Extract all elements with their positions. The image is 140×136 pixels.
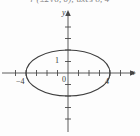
ellipse-figure: r (±2√6, 0); axes 8, 4 — [0, 0, 140, 136]
x-tick-label-negative-4: −4 — [16, 77, 25, 86]
y-axis-arrow-icon — [65, 10, 71, 16]
y-tick-label-one: 1 — [55, 56, 59, 65]
origin-label: 0 — [62, 75, 66, 84]
x-axis-label: x — [131, 68, 135, 77]
coordinate-plot — [0, 0, 140, 136]
x-tick-label-positive-4: 4 — [105, 77, 109, 86]
y-axis-label: y — [62, 8, 66, 17]
